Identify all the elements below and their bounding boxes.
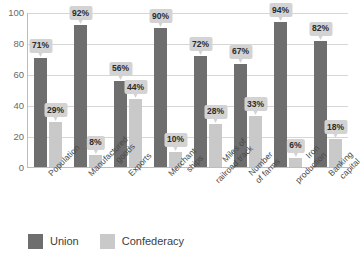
- legend-item-union[interactable]: Union: [28, 234, 79, 249]
- y-tick-label: 20: [0, 132, 24, 142]
- x-tick-slot: Merchant ships: [148, 169, 188, 227]
- bar-group: 71% 29%: [28, 13, 68, 167]
- x-tick-slot: Number of farms: [228, 169, 268, 227]
- x-tick-slot: Exports: [108, 169, 148, 227]
- y-tick-label: 40: [0, 101, 24, 111]
- bar-value-label: 8%: [86, 136, 104, 150]
- legend-label-confederacy: Confederacy: [122, 236, 184, 247]
- y-tick-label: 80: [0, 39, 24, 49]
- x-tick-slot: Manufactured goods: [68, 169, 108, 227]
- legend-swatch-confederacy: [100, 234, 115, 249]
- chart-legend: Union Confederacy: [28, 234, 196, 249]
- bar-value-label: 29%: [44, 103, 67, 117]
- x-tick-slot: Miles of railroad track: [188, 169, 228, 227]
- bar-value-label: 18%: [324, 120, 347, 134]
- bar-group: 94% 6%: [268, 13, 308, 167]
- bar-value-label: 90%: [149, 9, 172, 23]
- bar-union[interactable]: 94%: [274, 22, 287, 167]
- x-tick-slot: Iron production: [268, 169, 308, 227]
- bar-value-label: 94%: [269, 3, 292, 17]
- bar-value-label: 72%: [189, 37, 212, 51]
- x-tick-slot: Population: [28, 169, 68, 227]
- y-tick-label: 100: [0, 8, 24, 18]
- bar-value-label: 28%: [204, 105, 227, 119]
- legend-label-union: Union: [50, 236, 79, 247]
- bar-value-label: 56%: [109, 62, 132, 76]
- bar-value-label: 10%: [164, 133, 187, 147]
- legend-item-confederacy[interactable]: Confederacy: [100, 234, 184, 249]
- bar-value-label: 6%: [286, 139, 304, 153]
- bar-value-label: 33%: [244, 97, 267, 111]
- bar-value-label: 67%: [229, 45, 252, 59]
- legend-swatch-union: [28, 234, 43, 249]
- bar-group: 90% 10%: [148, 13, 188, 167]
- bar-value-label: 44%: [124, 80, 147, 94]
- y-tick-label: 60: [0, 70, 24, 80]
- y-tick-label: 0: [0, 163, 24, 173]
- x-axis-labels: Population Manufactured goods Exports Me…: [28, 169, 348, 227]
- bar-group: 72% 28%: [188, 13, 228, 167]
- x-tick-slot: Banking capital: [308, 169, 348, 227]
- bar-value-label: 82%: [309, 22, 332, 36]
- bar-value-label: 92%: [69, 6, 92, 20]
- bar-value-label: 71%: [29, 39, 52, 53]
